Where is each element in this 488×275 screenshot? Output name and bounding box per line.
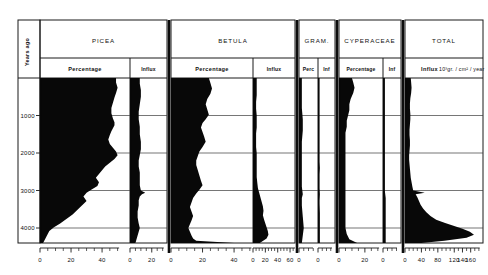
x-axis-tick-label: 0 (337, 257, 341, 263)
x-axis-tick-label: 20 (199, 257, 207, 263)
curve-total-influx (405, 78, 474, 243)
depth-tick-label: 3000 (20, 188, 35, 194)
panel-title-total: TOTAL (432, 37, 456, 44)
x-axis-tick-label: 0 (297, 257, 301, 263)
curve-picea-percentage (40, 78, 118, 243)
subpanel-label-influx: Influx (141, 66, 156, 72)
x-axis-tick-label: 20 (148, 257, 156, 263)
x-axis-tick-label: 20 (262, 257, 270, 263)
panel-title-cyperaceae: CYPERACEAE (344, 37, 395, 44)
pollen-diagram-svg: PICEAPercentageInfluxBETULAPercentageInf… (0, 0, 488, 275)
curve-betula-percentage (171, 78, 234, 243)
panel-title-betula: BETULA (218, 37, 247, 44)
x-axis-tick-label: 60 (286, 257, 294, 263)
x-axis-tick-label: 0 (128, 257, 132, 263)
x-axis-tick-label: 40 (230, 257, 238, 263)
curve-betula-influx (253, 78, 268, 243)
x-axis-tick-label: 160 (465, 257, 476, 263)
subpanel-label-percentage: Percentage (347, 66, 376, 72)
x-axis-tick-label: 40 (98, 257, 106, 263)
x-axis-tick-label: 0 (316, 257, 320, 263)
panel-frame-gram (299, 20, 335, 243)
curve-picea-influx (130, 78, 145, 243)
x-axis-tick-label: 0 (251, 257, 255, 263)
subpanel-label-influx: Influx (421, 66, 439, 72)
x-axis-tick-label: 80 (434, 257, 442, 263)
depth-tick-label: 1000 (20, 113, 35, 119)
x-axis-tick-label: 20 (361, 257, 369, 263)
x-axis-tick-label: 0 (381, 257, 385, 263)
x-axis-tick-label: 0 (403, 257, 407, 263)
x-axis-tick-label: 0 (38, 257, 42, 263)
depth-tick-label: 4000 (20, 225, 35, 231)
subpanel-label-influx: Influx (267, 66, 282, 72)
x-axis-tick-label: 0 (169, 257, 173, 263)
depth-tick-label: 2000 (20, 150, 35, 156)
subpanel-label-percentage: Perc (303, 66, 315, 72)
subpanel-label-percentage: Percentage (195, 66, 229, 72)
panel-title-gram: GRAM. (305, 37, 330, 44)
panel-title-picea: PICEA (92, 37, 115, 44)
x-axis-tick-label: 40 (418, 257, 426, 263)
curve-cyperaceae-percentage (339, 78, 357, 243)
pollen-diagram: PICEAPercentageInfluxBETULAPercentageInf… (0, 0, 488, 275)
subpanel-label-influx: Inf (389, 66, 396, 72)
subpanel-label-percentage: Percentage (68, 66, 102, 72)
x-axis-tick-label: 40 (274, 257, 282, 263)
panel-frame-cyperaceae (339, 20, 401, 243)
subpanel-label-influx: Inf (323, 66, 330, 72)
depth-axis-label: Years ago (24, 38, 30, 67)
subpanel-units: 10³gr. / cm² / year (439, 66, 484, 72)
x-axis-tick-label: 20 (67, 257, 75, 263)
